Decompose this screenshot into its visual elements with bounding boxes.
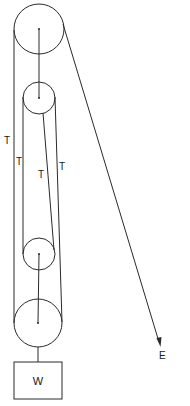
weight-label: W [33, 375, 44, 387]
rope-diagonal [43, 113, 54, 250]
tension-label-right: T [59, 161, 65, 172]
tension-label-inner-left: T [16, 156, 22, 167]
effort-arrow-icon [157, 337, 162, 347]
rope-right [55, 97, 62, 322]
effort-rope [63, 24, 159, 342]
upper-small-pulley-axle [38, 97, 40, 99]
bottom-large-pulley-axle [37, 322, 39, 324]
tension-label-diagonal: T [38, 169, 44, 180]
pulley-system-diagram: W E T T T T [0, 0, 190, 406]
lower-axle-rod [38, 254, 39, 323]
tension-label-outer-left: T [4, 135, 10, 146]
effort-label: E [159, 350, 166, 361]
